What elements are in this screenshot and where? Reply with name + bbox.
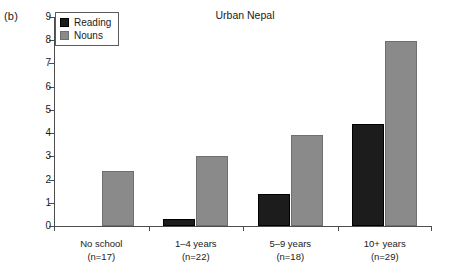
bar-nouns-group-1	[102, 171, 134, 226]
x-label-group-4: 10+ years(n=29)	[338, 238, 433, 263]
x-label-group-1: No school(n=17)	[54, 238, 149, 263]
x-tick-mark-1	[149, 226, 150, 231]
x-label-count: (n=29)	[338, 251, 433, 263]
x-label-count: (n=18)	[243, 251, 338, 263]
legend-label-reading: Reading	[74, 17, 111, 28]
x-tick-mark-2	[243, 226, 244, 231]
y-tick-label: 4	[45, 126, 51, 139]
legend-swatch-reading	[60, 18, 69, 27]
legend-item-reading: Reading	[60, 16, 111, 29]
x-tick-mark-0	[54, 226, 55, 231]
x-label-name: No school	[54, 238, 149, 251]
x-label-name: 10+ years	[338, 238, 433, 251]
x-label-group-2: 1–4 years(n=22)	[149, 238, 244, 263]
legend-swatch-nouns	[60, 31, 69, 40]
bar-reading-group-3	[258, 194, 290, 227]
bar-reading-group-2	[163, 219, 195, 226]
bar-nouns-group-3	[291, 135, 323, 226]
y-axis-line	[54, 17, 55, 226]
bar-nouns-group-4	[385, 41, 417, 226]
y-tick-label: 5	[45, 103, 51, 116]
y-tick-label: 7	[45, 56, 51, 69]
plot-area: 0123456789 No school(n=17)1–4 years(n=22…	[54, 17, 432, 226]
x-label-count: (n=17)	[54, 251, 149, 263]
x-label-group-3: 5–9 years(n=18)	[243, 238, 338, 263]
legend-label-nouns: Nouns	[74, 30, 103, 41]
x-label-name: 1–4 years	[149, 238, 244, 251]
y-tick-label: 2	[45, 173, 51, 186]
y-tick-label: 3	[45, 149, 51, 162]
y-tick-label: 1	[45, 196, 51, 209]
x-tick-mark-4	[431, 226, 432, 231]
bar-reading-group-4	[352, 124, 384, 226]
bar-nouns-group-2	[196, 156, 228, 226]
y-tick-label: 0	[45, 219, 51, 232]
y-tick-label: 6	[45, 80, 51, 93]
chart-legend: ReadingNouns	[55, 12, 119, 46]
x-label-count: (n=22)	[149, 251, 244, 263]
x-tick-mark-3	[338, 226, 339, 231]
y-tick-label: 8	[45, 33, 51, 46]
y-tick-label: 9	[45, 10, 51, 23]
x-label-name: 5–9 years	[243, 238, 338, 251]
legend-item-nouns: Nouns	[60, 29, 111, 42]
